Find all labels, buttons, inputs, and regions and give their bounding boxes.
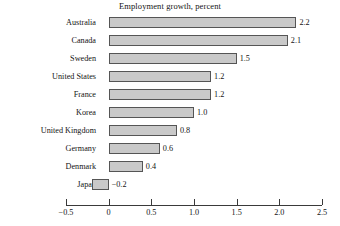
bar[interactable] [109,71,211,82]
bar-row: Sweden1.5 [0,50,340,68]
x-axis-tick [279,199,280,205]
x-axis-tick [194,199,195,205]
category-label: Australia [0,17,96,28]
x-axis-tick [109,199,110,205]
bar-value-label: 2.1 [291,35,301,47]
bar-row: France1.2 [0,86,340,104]
x-axis-tick-label: 1.0 [174,208,214,217]
x-axis-line [66,205,322,206]
category-label: Germany [0,143,96,154]
bar-value-label: 1.2 [214,89,224,101]
bar-value-label: 0.6 [163,143,173,155]
bar-row: Denmark0.4 [0,158,340,176]
x-axis-tick [151,199,152,205]
x-axis: −0.500.51.01.52.02.5 [0,196,340,226]
plot-area: Australia2.2Canada2.1Sweden1.5United Sta… [0,12,340,196]
bar-value-label: 1.0 [197,107,207,119]
category-label: Sweden [0,53,96,64]
bar-row: United States1.2 [0,68,340,86]
bar-row: Australia2.2 [0,14,340,32]
bar-value-label: 0.4 [146,161,156,173]
bar-value-label: 0.8 [180,125,190,137]
x-axis-tick-label: 2.5 [302,208,340,217]
x-axis-tick-label: −0.5 [46,208,86,217]
x-axis-tick [322,199,323,205]
x-axis-tick [237,199,238,205]
x-axis-tick-label: 0 [89,208,129,217]
chart-title: Employment growth, percent [0,1,340,11]
bar[interactable] [92,179,109,190]
category-label: Japan [0,179,96,190]
bar-row: Korea1.0 [0,104,340,122]
category-label: Denmark [0,161,96,172]
bar-row: Japan−0.2 [0,176,340,194]
x-axis-tick-label: 1.5 [217,208,257,217]
bar[interactable] [109,107,194,118]
bar[interactable] [109,143,160,154]
bar[interactable] [109,17,297,28]
category-label: United Kingdom [0,125,96,136]
bar-value-label: 1.5 [240,53,250,65]
bar[interactable] [109,161,143,172]
bar-value-label: 1.2 [214,71,224,83]
bar[interactable] [109,35,288,46]
bar-value-label: −0.2 [112,179,127,191]
bar[interactable] [109,125,177,136]
category-label: France [0,89,96,100]
bar-row: United Kingdom0.8 [0,122,340,140]
bar[interactable] [109,89,211,100]
x-axis-tick-label: 2.0 [259,208,299,217]
x-axis-tick-label: 0.5 [131,208,171,217]
x-axis-tick [66,199,67,205]
bar-value-label: 2.2 [299,17,309,29]
bar-row: Canada2.1 [0,32,340,50]
chart-container: Employment growth, percent Australia2.2C… [0,0,340,226]
category-label: Canada [0,35,96,46]
category-label: Korea [0,107,96,118]
category-label: United States [0,71,96,82]
bar-row: Germany0.6 [0,140,340,158]
bar[interactable] [109,53,237,64]
